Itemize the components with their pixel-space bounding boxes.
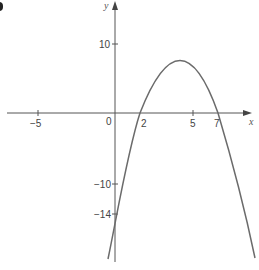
- parabola-curve: [108, 61, 255, 260]
- x-axis-label: x: [248, 116, 254, 127]
- parabola-chart: y x 0 −5 5 2 7 10 −10 −14: [0, 0, 259, 270]
- root-2-label: 2: [141, 118, 147, 129]
- x-tick-neg5-label: −5: [30, 118, 42, 129]
- x-tick-5-label: 5: [190, 118, 196, 129]
- y-tick-neg14-label: −14: [94, 209, 111, 220]
- root-7-label: 7: [214, 118, 220, 129]
- y-axis-label: y: [103, 0, 109, 11]
- y-axis-arrow-icon: [112, 1, 118, 10]
- origin-label: 0: [106, 116, 112, 127]
- y-tick-neg10-label: −10: [94, 179, 111, 190]
- y-tick-10-label: 10: [99, 39, 111, 50]
